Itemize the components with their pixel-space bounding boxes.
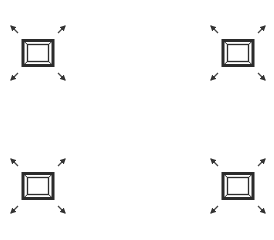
expand-button-label [8, 83, 9, 84]
expand-fullscreen-icon [208, 23, 268, 83]
expand-button-top-left[interactable] [8, 23, 68, 83]
expand-button-bottom-right[interactable] [208, 156, 268, 216]
expand-fullscreen-icon [8, 156, 68, 216]
expand-button-bottom-left[interactable] [8, 156, 68, 216]
expand-fullscreen-icon [208, 156, 268, 216]
expand-button-label [208, 83, 209, 84]
expand-button-top-right[interactable] [208, 23, 268, 83]
expand-fullscreen-icon [8, 23, 68, 83]
expand-button-label [8, 216, 9, 217]
expand-button-label [208, 216, 209, 217]
